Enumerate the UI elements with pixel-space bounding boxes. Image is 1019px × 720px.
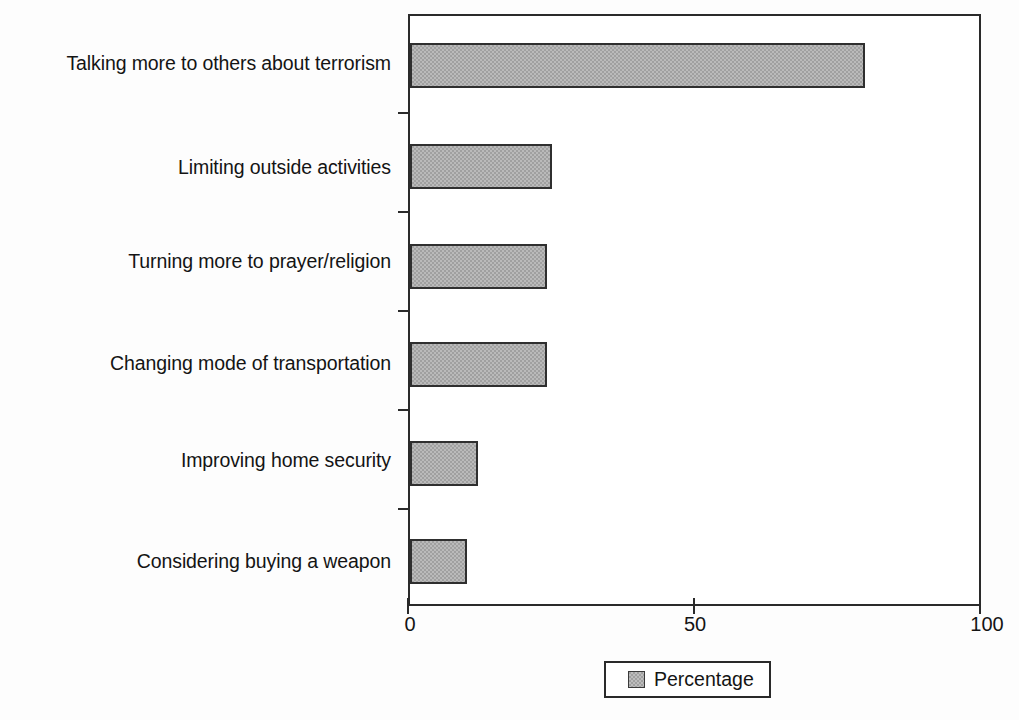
bar-improving-home-security[interactable] bbox=[410, 441, 478, 486]
x-axis-label-100: 100 bbox=[970, 614, 1003, 634]
plot-area bbox=[408, 14, 981, 606]
x-axis-tick-100 bbox=[979, 598, 981, 614]
category-label-2: Turning more to prayer/religion bbox=[128, 252, 391, 272]
legend-swatch-percentage bbox=[628, 671, 645, 688]
bar-turning-more-to-prayer-religion[interactable] bbox=[410, 244, 547, 289]
legend[interactable]: Percentage bbox=[604, 661, 771, 698]
category-label-3: Changing mode of transportation bbox=[110, 354, 391, 374]
chart-page: Talking more to others about terrorism L… bbox=[0, 0, 1019, 720]
bar-talking-more-to-others-about-terrorism[interactable] bbox=[410, 43, 865, 88]
x-axis-label-0: 0 bbox=[404, 614, 415, 634]
bar-considering-buying-a-weapon[interactable] bbox=[410, 539, 467, 584]
category-label-5: Considering buying a weapon bbox=[137, 552, 391, 572]
category-label-0: Talking more to others about terrorism bbox=[66, 54, 391, 74]
x-axis-tick-50 bbox=[693, 598, 695, 614]
category-label-4: Improving home security bbox=[181, 451, 391, 471]
bar-changing-mode-of-transportation[interactable] bbox=[410, 342, 547, 387]
x-axis-tick-0 bbox=[407, 598, 409, 614]
category-label-1: Limiting outside activities bbox=[178, 158, 391, 178]
bar-limiting-outside-activities[interactable] bbox=[410, 144, 552, 189]
x-axis-label-50: 50 bbox=[684, 614, 706, 634]
legend-label-percentage: Percentage bbox=[654, 670, 754, 690]
